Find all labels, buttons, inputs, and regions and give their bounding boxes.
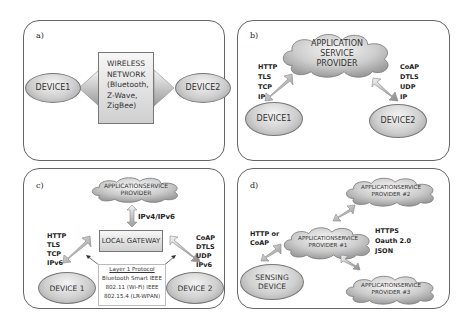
right-protocols: HTTPS Oauth 2.0 JSON: [375, 226, 411, 256]
sensing-device-node: SENSING DEVICE: [240, 264, 304, 300]
double-arrow-icon: [333, 205, 355, 221]
protocol: HTTPS: [375, 226, 411, 236]
sensing-line: SENSING: [255, 273, 289, 282]
double-arrow-icon: [341, 255, 360, 270]
protocol: JSON: [375, 246, 411, 256]
protocol: HTTP or: [250, 230, 279, 239]
panel-d-arrows: [0, 0, 460, 325]
left-protocols: HTTP or CoAP: [250, 230, 279, 248]
protocol: CoAP: [250, 239, 279, 248]
protocol: Oauth 2.0: [375, 236, 411, 246]
sensing-line: DEVICE: [255, 282, 289, 291]
